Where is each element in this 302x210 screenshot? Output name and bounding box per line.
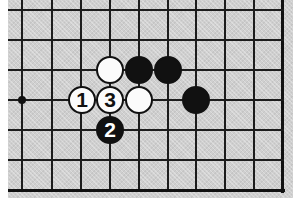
board-edge-right (281, 0, 284, 193)
stone-move-number: 1 (76, 89, 88, 110)
margin-bottom (0, 198, 302, 210)
stone-black-plain-right[interactable] (182, 86, 210, 114)
stone-move-2[interactable]: 2 (96, 116, 124, 144)
stone-white-plain-mid[interactable] (125, 86, 153, 114)
stone-black-plain-top-1[interactable] (125, 56, 153, 84)
grid-line-horizontal-4 (8, 129, 284, 131)
stone-move-number: 3 (104, 89, 116, 110)
stone-move-3[interactable]: 3 (96, 86, 124, 114)
stone-black-plain-top-2[interactable] (154, 56, 182, 84)
stone-move-number: 2 (104, 119, 116, 140)
star-point-0 (18, 96, 26, 104)
grid-line-vertical-1 (51, 0, 53, 192)
board-edge-bottom (8, 189, 285, 192)
grid-line-vertical-7 (224, 0, 226, 192)
grid-line-horizontal-5 (8, 159, 284, 161)
grid-line-vertical-5 (167, 0, 169, 192)
grid-line-horizontal-1 (8, 39, 284, 41)
grid-line-horizontal-0 (8, 9, 284, 11)
stone-white-plain-top[interactable] (96, 56, 124, 84)
go-diagram: 132 (0, 0, 302, 210)
margin-right (293, 0, 302, 210)
stone-move-1[interactable]: 1 (68, 86, 96, 114)
grid-line-vertical-8 (253, 0, 255, 192)
margin-left (0, 0, 8, 210)
